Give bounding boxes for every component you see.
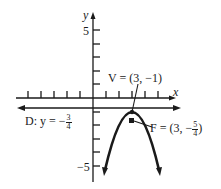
y-tick-label-5: 5 [83,25,89,37]
focus-point [129,118,134,123]
vertex-label: V = (3, −1) [108,72,162,84]
focus-label-text: F = (3, − [150,121,192,135]
directrix-label: D: y = −34 [25,114,72,131]
parabola-diagram [0,0,221,189]
focus-label-close: ) [198,121,202,135]
parabola-left-arrow [102,167,108,176]
directrix-fraction: 34 [66,114,72,131]
y-axis [91,12,101,182]
y-tick-label-neg5: −5 [77,161,90,173]
vertex-label-text: V = (3, −1) [108,71,162,85]
directrix-line [17,105,181,111]
y-axis-label: y [83,9,88,21]
focus-label: F = (3, −54) [150,121,202,138]
directrix-label-text: D: y = − [25,114,66,128]
parabola-right-arrow [156,167,162,176]
x-axis-label: x [173,86,178,98]
x-axis [16,91,176,101]
directrix-frac-den: 4 [66,123,72,131]
